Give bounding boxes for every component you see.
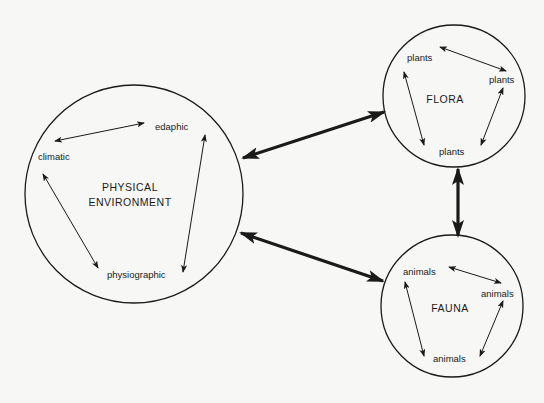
- fauna-node: FAUNA animals animals animals: [381, 235, 523, 377]
- physical-title-line1: PHYSICAL: [102, 181, 158, 193]
- flora-title: FLORA: [426, 93, 464, 105]
- fauna-member-1: animals: [403, 266, 436, 277]
- ecosystem-diagram: PHYSICAL ENVIRONMENT edaphic climatic ph…: [0, 0, 544, 403]
- arrow-edaphic-physiographic: [183, 135, 205, 272]
- arrow-animals-2-3: [480, 301, 503, 356]
- arrow-physical-fauna: [241, 233, 383, 281]
- factor-edaphic: edaphic: [155, 121, 189, 132]
- flora-member-3: plants: [439, 146, 465, 157]
- arrow-plants-1-3: [404, 72, 424, 145]
- arrow-plants-1-2: [440, 47, 506, 71]
- factor-climatic: climatic: [38, 151, 70, 162]
- physical-title-line2: ENVIRONMENT: [88, 196, 171, 208]
- fauna-member-3: animals: [433, 353, 466, 364]
- factor-physiographic: physiographic: [107, 269, 166, 280]
- arrow-climatic-physiographic: [43, 174, 98, 268]
- arrow-physical-flora: [243, 112, 384, 158]
- arrow-plants-2-3: [481, 88, 503, 145]
- flora-member-1: plants: [407, 52, 433, 63]
- arrow-animals-1-3: [405, 282, 424, 356]
- flora-node: FLORA plants plants plants: [383, 25, 525, 167]
- arrow-climatic-edaphic: [55, 123, 144, 141]
- fauna-member-2: animals: [481, 288, 514, 299]
- fauna-title: FAUNA: [431, 302, 469, 314]
- physical-environment-node: PHYSICAL ENVIRONMENT edaphic climatic ph…: [25, 85, 243, 303]
- arrow-animals-1-2: [449, 267, 501, 283]
- flora-member-2: plants: [489, 74, 515, 85]
